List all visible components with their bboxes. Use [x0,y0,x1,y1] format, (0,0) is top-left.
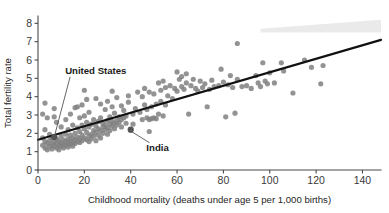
data-point [158,88,163,93]
x-axis: 020406080100120140 [35,170,381,186]
data-point [98,101,103,106]
data-point [188,83,193,88]
data-point [82,88,87,93]
data-point [165,93,170,98]
data-point [161,113,166,118]
data-point [103,107,108,112]
x-tick-label: 140 [354,174,372,186]
data-point [265,81,270,86]
data-point [156,80,161,85]
data-point [82,113,87,118]
annotation-label-united-states: United States [65,65,126,76]
y-tick-label: 8 [26,17,32,29]
data-point [184,71,189,76]
y-tick-label: 3 [26,109,32,121]
data-point [209,78,214,83]
x-tick-label: 0 [35,174,41,186]
data-point [272,80,277,85]
data-point [163,85,168,90]
data-point [168,83,173,88]
data-point [239,84,244,89]
x-tick-label: 20 [79,174,91,186]
data-point [93,96,98,101]
data-point [114,95,119,100]
data-point [156,111,161,116]
y-tick-label: 4 [26,90,32,102]
data-point [110,89,115,94]
data-point [174,69,179,74]
data-point [290,90,295,95]
annotation-label-india: India [146,142,169,153]
data-point [140,117,145,122]
data-point [107,128,112,133]
data-point [98,115,103,120]
data-point [228,73,233,78]
data-point [59,124,64,129]
data-point [75,104,80,109]
x-tick-label: 100 [261,174,279,186]
data-point [45,115,50,120]
data-point [147,129,152,134]
data-point [191,77,196,82]
data-point [154,116,159,121]
data-point [260,60,265,65]
data-point [221,79,226,84]
y-axis-title: Total fertility rate [2,58,13,128]
data-point [86,110,91,115]
data-point [135,89,140,94]
data-point [320,63,325,68]
data-point [105,99,110,104]
data-point [63,117,68,122]
data-point [123,121,128,126]
y-tick-label: 2 [26,127,32,139]
data-point [110,104,115,109]
trendline [38,40,381,140]
data-point [249,86,254,91]
confidence-band [260,20,381,33]
data-point [279,60,284,65]
y-tick-label: 5 [26,72,32,84]
data-point [126,100,131,105]
x-tick-label: 80 [218,174,230,186]
data-point [91,117,96,122]
data-point [151,91,156,96]
data-point [198,78,203,83]
data-point [232,111,237,116]
data-point [52,114,57,119]
data-point [126,93,131,98]
data-point [119,103,124,108]
data-point [202,81,207,86]
data-point [119,124,124,129]
data-point [142,86,147,91]
data-point [181,87,186,92]
data-point [147,89,152,94]
data-point [318,81,323,86]
x-tick-label: 60 [171,174,183,186]
chart-canvas: 012345678 020406080100120140 United Stat… [0,0,389,213]
data-point [52,106,57,111]
data-point [223,114,228,119]
data-point [205,104,210,109]
data-point [93,138,98,143]
data-point [218,67,223,72]
data-point [174,89,179,94]
y-tick-label: 6 [26,54,32,66]
data-point [40,111,45,116]
data-point [84,97,89,102]
x-tick-label: 40 [125,174,137,186]
data-point [70,122,75,127]
data-point [130,122,135,127]
data-point [230,85,235,90]
x-tick-label: 120 [307,174,325,186]
y-tick-label: 0 [26,164,32,176]
fertility-mortality-scatter-chart: 012345678 020406080100120140 United Stat… [0,0,389,213]
data-point [79,102,84,107]
data-point [184,80,189,85]
data-point [98,135,103,140]
data-point [161,78,166,83]
data-point [186,111,191,116]
data-point [77,115,82,120]
data-point [68,111,73,116]
x-axis-title: Childhood mortality (deaths under age 5 … [88,194,331,205]
data-point [112,111,117,116]
